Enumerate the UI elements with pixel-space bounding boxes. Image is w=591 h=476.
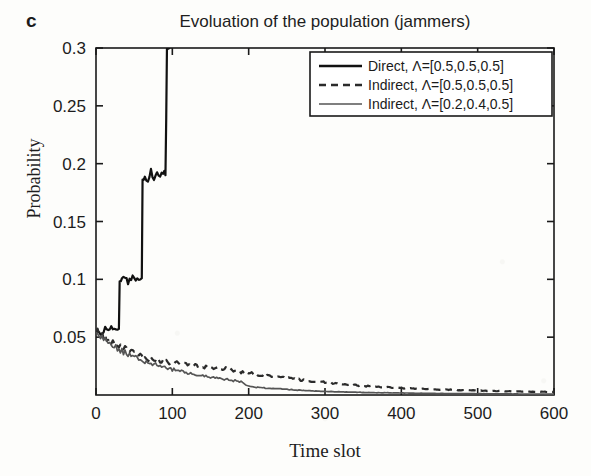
x-tick-label-0: 0 (91, 404, 100, 423)
y-tick-label-3: 0.2 (62, 155, 86, 174)
chart-legend: Direct, Λ=[0.5,0.5,0.5]Indirect, Λ=[0.5,… (310, 52, 552, 116)
x-tick-label-2: 200 (234, 404, 262, 423)
x-tick-label-3: 300 (311, 404, 339, 423)
plot-canvas: 0.050.10.150.20.250.3 010020030040050060… (0, 0, 591, 476)
y-tick-label-0: 0.05 (53, 328, 86, 347)
x-tick-label-5: 500 (463, 404, 491, 423)
x-tick-label-4: 400 (387, 404, 415, 423)
y-tick-label-2: 0.15 (53, 213, 86, 232)
x-tick-label-6: 600 (540, 404, 568, 423)
series-line-0 (96, 45, 172, 335)
y-tick-label-4: 0.25 (53, 97, 86, 116)
x-tick-label-1: 100 (158, 404, 186, 423)
legend-label-0: Direct, Λ=[0.5,0.5,0.5] (368, 58, 504, 74)
y-tick-label-1: 0.1 (62, 270, 86, 289)
x-tick-labels: 0100200300400500600 (91, 404, 568, 423)
legend-label-1: Indirect, Λ=[0.5,0.5,0.5] (368, 77, 513, 93)
legend-label-2: Indirect, Λ=[0.2,0.4,0.5] (368, 96, 513, 112)
series-line-2 (96, 332, 554, 394)
y-tick-label-5: 0.3 (62, 39, 86, 58)
y-tick-labels: 0.050.10.150.20.250.3 (53, 39, 86, 347)
chart-figure: c Evoluation of the population (jammers)… (0, 0, 591, 476)
series-line-1 (96, 329, 554, 392)
